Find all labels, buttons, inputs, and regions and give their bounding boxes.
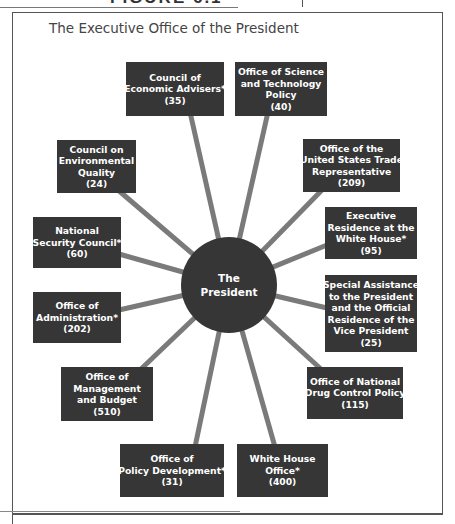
office-staff-count: (40) <box>270 101 291 113</box>
office-box-council-of-economic-advisers: Council of Economic Advisers* (35) <box>126 62 224 116</box>
office-name-line: United States Trade <box>300 154 403 166</box>
office-box-us-trade-representative: Office of the United States Trade Repres… <box>303 139 400 192</box>
office-box-national-drug-control-policy: Office of National Drug Control Policy (… <box>307 367 403 419</box>
office-name-line: Special Assistance <box>323 279 419 291</box>
office-name-line: and Technology <box>241 78 322 90</box>
president-hub: The President <box>181 237 277 333</box>
office-name-line: Council on <box>70 144 124 156</box>
office-name-line: Security Council* <box>33 237 122 249</box>
hub-label-line: The <box>218 271 240 285</box>
office-name-line: Representative <box>312 166 391 178</box>
office-staff-count: (115) <box>341 399 369 411</box>
office-box-national-security-council: National Security Council* (60) <box>33 217 121 268</box>
office-name-line: Management <box>73 383 141 395</box>
office-box-executive-residence: Executive Residence at the White House* … <box>325 207 417 259</box>
office-name-line: White House* <box>336 233 407 245</box>
office-box-white-house-office: White House Office* (400) <box>237 444 328 497</box>
office-staff-count: (60) <box>66 248 87 260</box>
office-name-line: Quality <box>78 167 115 179</box>
office-box-management-and-budget: Office of Management and Budget (510) <box>61 367 153 421</box>
office-name-line: Executive <box>346 210 396 222</box>
office-name-line: National <box>55 225 99 237</box>
office-staff-count: (24) <box>86 178 107 190</box>
office-name-line: and the Official <box>332 302 411 314</box>
office-name-line: Office of the <box>320 143 384 155</box>
office-staff-count: (209) <box>338 177 366 189</box>
office-name-line: Environmental <box>59 155 134 167</box>
office-staff-count: (25) <box>360 337 381 349</box>
office-name-line: White House <box>250 453 316 465</box>
office-name-line: Office of <box>85 371 128 383</box>
office-name-line: and Budget <box>77 394 137 406</box>
office-staff-count: (202) <box>63 323 91 335</box>
office-box-environmental-quality: Council on Environmental Quality (24) <box>57 140 136 193</box>
office-box-special-assistance-vice-president: Special Assistance to the President and … <box>325 275 417 352</box>
office-name-line: Office of Science <box>238 66 324 78</box>
office-name-line: Residence of the <box>328 314 415 326</box>
office-name-line: Administration* <box>36 312 118 324</box>
office-name-line: Vice President <box>334 325 409 337</box>
hub-label-line: President <box>201 285 258 299</box>
office-name-line: to the President <box>329 291 413 303</box>
office-name-line: Residence at the <box>327 222 414 234</box>
office-name-line: Policy <box>266 89 297 101</box>
office-name-line: Council of <box>149 72 200 84</box>
office-staff-count: (95) <box>360 245 381 257</box>
office-name-line: Office of <box>55 300 98 312</box>
office-name-line: Office* <box>265 465 300 477</box>
office-staff-count: (31) <box>161 476 182 488</box>
office-name-line: Drug Control Policy <box>305 387 405 399</box>
office-staff-count: (510) <box>93 406 121 418</box>
office-staff-count: (35) <box>164 95 185 107</box>
office-box-policy-development: Office of Policy Development* (31) <box>120 444 224 497</box>
office-name-line: Policy Development* <box>118 465 226 477</box>
office-name-line: Economic Advisers* <box>124 83 226 95</box>
office-name-line: Office of National <box>310 376 400 388</box>
office-box-science-technology-policy: Office of Science and Technology Policy … <box>235 62 327 116</box>
office-staff-count: (400) <box>269 476 297 488</box>
office-name-line: Office of <box>150 453 193 465</box>
office-box-administration: Office of Administration* (202) <box>33 292 121 343</box>
